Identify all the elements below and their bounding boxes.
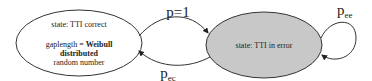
transition-error-to-correct: pec — [139, 51, 210, 81]
weibull-text: Weibull — [86, 40, 113, 49]
state-correct-title: state: TTI correct — [51, 20, 107, 29]
state-correct: state: TTI correct gaplength = Weibull d… — [16, 10, 142, 76]
state-error-title: state: TTI in error — [236, 41, 293, 50]
label-pee-sub: ee — [345, 10, 353, 20]
transition-correct-to-error: p=1 — [139, 4, 208, 36]
transition-error-self-loop: pee — [321, 2, 356, 59]
transition-label-pee: pee — [337, 2, 353, 20]
state-correct-line2: distributed — [60, 49, 98, 58]
label-pec-sub: ec — [168, 73, 176, 81]
transition-label-p1: p=1 — [166, 4, 189, 20]
diagram-canvas: state: TTI correct gaplength = Weibull d… — [0, 0, 372, 81]
state-error: state: TTI in error — [206, 12, 322, 78]
label-pec-main: p — [160, 65, 168, 81]
transition-label-pec: pec — [160, 65, 176, 81]
state-correct-line3: random number — [54, 58, 105, 67]
state-correct-line1: gaplength = Weibull — [46, 40, 114, 49]
state-diagram: state: TTI correct gaplength = Weibull d… — [0, 0, 372, 81]
label-pee-main: p — [337, 2, 345, 18]
gaplength-prefix: gaplength = — [46, 40, 86, 49]
